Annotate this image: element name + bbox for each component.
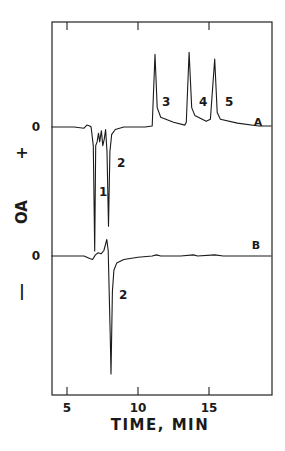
x-tick-label: 15 xyxy=(201,401,218,415)
x-axis-ticks: 51015 xyxy=(63,22,218,415)
series-label-b: B xyxy=(252,239,260,252)
y-axis-label: OA xyxy=(13,200,31,224)
zero-label-a: 0 xyxy=(32,120,40,134)
peak-label-a-4: 4 xyxy=(199,95,207,109)
peak-label-a-5: 5 xyxy=(225,95,233,109)
positive-sign: + xyxy=(15,143,28,162)
zero-label-b: 0 xyxy=(32,249,40,263)
peak-labels: 123452 xyxy=(99,95,233,302)
peak-label-a-2: 2 xyxy=(117,156,125,170)
x-axis-label: TIME, MIN xyxy=(111,416,209,434)
peak-label-b-2: 2 xyxy=(119,288,127,302)
chromatogram-chart: 51015 123452 0 0 + | OA A B TIME, MIN xyxy=(0,0,285,451)
series-label-a: A xyxy=(254,116,263,129)
peak-label-a-3: 3 xyxy=(162,95,170,109)
negative-sign: | xyxy=(19,281,25,301)
plot-frame xyxy=(52,22,272,395)
x-tick-label: 10 xyxy=(130,401,147,415)
peak-label-a-1: 1 xyxy=(99,185,107,199)
trace-a xyxy=(51,52,271,251)
trace-b xyxy=(51,240,271,375)
x-tick-label: 5 xyxy=(63,401,71,415)
